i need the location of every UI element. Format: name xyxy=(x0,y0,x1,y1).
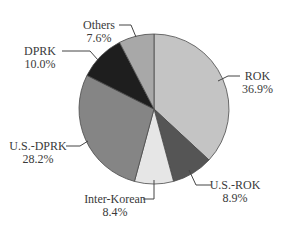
slice-label-us-rok: U.S.-ROK 8.9% xyxy=(205,179,265,205)
slice-percent: 36.9% xyxy=(242,83,273,96)
leader-line-us-dprk xyxy=(66,141,88,146)
leader-line-dprk xyxy=(62,51,98,60)
slice-label-us-dprk: U.S.-DPRK 28.2% xyxy=(8,140,68,166)
leader-line-others xyxy=(119,25,136,37)
slice-label-dprk: DPRK 10.0% xyxy=(24,45,56,71)
slice-percent: 8.4% xyxy=(82,206,148,219)
slice-percent: 28.2% xyxy=(8,153,68,166)
slice-percent: 10.0% xyxy=(24,58,56,71)
pie-slices xyxy=(79,34,229,184)
slice-label-others: Others 7.6% xyxy=(83,19,115,45)
slice-percent: 8.9% xyxy=(205,192,265,205)
slice-label-rok: ROK 36.9% xyxy=(242,70,273,96)
slice-percent: 7.6% xyxy=(83,32,115,45)
slice-label-inter-korean: Inter-Korean 8.4% xyxy=(82,193,148,219)
